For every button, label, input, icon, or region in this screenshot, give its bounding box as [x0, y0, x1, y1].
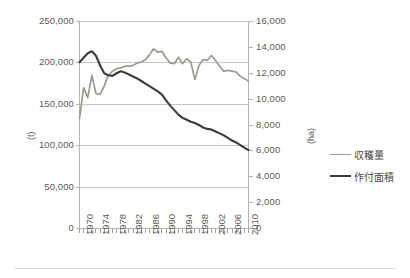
chart-container: 050,000100,000150,000200,000250,000 02,0… [0, 0, 410, 278]
y-axis-left-tick: 0 [69, 222, 74, 233]
y-axis-right-tick: 4,000 [256, 170, 280, 181]
x-axis-tick: 2006 [232, 213, 243, 234]
chart-axes [76, 22, 253, 229]
x-axis-tick: 2010 [249, 213, 260, 234]
legend-label-yield: 収穫量 [354, 147, 384, 162]
legend-item-planted-area: 作付面積 [330, 165, 410, 187]
y-axis-right-tick: 12,000 [256, 67, 286, 78]
y-axis-left-tick: 150,000 [39, 98, 74, 109]
x-axis-tick: 1978 [117, 213, 128, 234]
legend-swatch-planted-area [330, 175, 351, 177]
series-line [80, 49, 249, 119]
gridlines [80, 22, 249, 188]
y-axis-left-tick: 50,000 [44, 181, 74, 192]
y-axis-right-tick: 14,000 [256, 41, 286, 52]
legend-swatch-yield [330, 154, 351, 155]
x-axis-tick: 2002 [216, 213, 227, 234]
chart-legend: 収穫量 作付面積 [330, 143, 410, 187]
y-axis-right-title: (ha) [306, 128, 316, 144]
legend-item-yield: 収穫量 [330, 143, 410, 165]
x-axis-tick: 1998 [199, 213, 210, 234]
y-axis-right-tick: 6,000 [256, 144, 280, 155]
data-series-lines [80, 49, 249, 150]
x-axis-tick: 1994 [183, 213, 194, 234]
y-axis-right-tick: 8,000 [256, 119, 280, 130]
legend-label-planted-area: 作付面積 [354, 169, 394, 184]
x-axis-tick: 1970 [84, 213, 95, 234]
y-axis-right-tick: 16,000 [256, 15, 286, 26]
x-axis-tick: 1982 [133, 213, 144, 234]
series-line [80, 51, 249, 150]
y-axis-right-tick: 2,000 [256, 196, 280, 207]
x-axis-tick: 1986 [150, 213, 161, 234]
y-axis-left-tick: 200,000 [39, 56, 74, 67]
x-axis-tick: 1990 [166, 213, 177, 234]
footer-divider [14, 268, 396, 269]
y-axis-left-tick: 100,000 [39, 139, 74, 150]
y-axis-left-title: (t) [26, 132, 36, 141]
y-axis-right-tick: 10,000 [256, 93, 286, 104]
x-axis-tick: 1974 [100, 213, 111, 234]
y-axis-left-tick: 250,000 [39, 15, 74, 26]
